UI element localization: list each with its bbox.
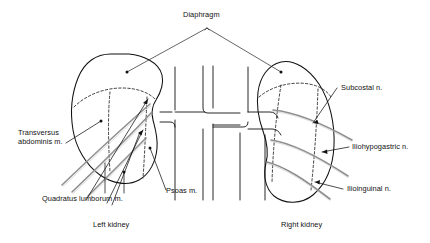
iliohypogastric-arrowhead [322, 150, 328, 155]
vertebral-column [160, 66, 281, 200]
nerve-bands-left [62, 104, 152, 196]
label-iliohypogastric-nerve: Iliohypogastric n. [352, 142, 408, 151]
ilioinguinal-arrowhead [315, 180, 320, 185]
nerve-bands-left-highlight [63, 106, 153, 198]
label-right-kidney: Right kidney [281, 220, 322, 229]
diaphragm-leader-dots [126, 71, 283, 74]
label-quadratus-lumborum: Quadratus lumborum m. [42, 194, 123, 203]
quadratus-leader-dot [123, 171, 126, 174]
label-psoas: Psoas m. [166, 186, 197, 195]
label-transversus-abdominis: Transversus abdominis m. [18, 128, 63, 147]
psoas-leader [150, 148, 166, 190]
anatomy-diagram [0, 0, 430, 243]
transversus-leader-dot [100, 120, 103, 123]
psoas-leader-dot [149, 147, 152, 150]
diaphragm-leader [127, 28, 281, 72]
nerve-bands-right-highlight [267, 112, 352, 201]
label-diaphragm: Diaphragm [183, 10, 220, 19]
subcostal-leader [313, 88, 337, 123]
label-left-kidney: Left kidney [93, 220, 129, 229]
right-kidney-outline [257, 61, 334, 202]
label-ilioinguinal-nerve: Ilioinguinal n. [347, 184, 391, 193]
transversus-leader [66, 121, 101, 143]
label-subcostal-nerve: Subcostal n. [341, 83, 382, 92]
